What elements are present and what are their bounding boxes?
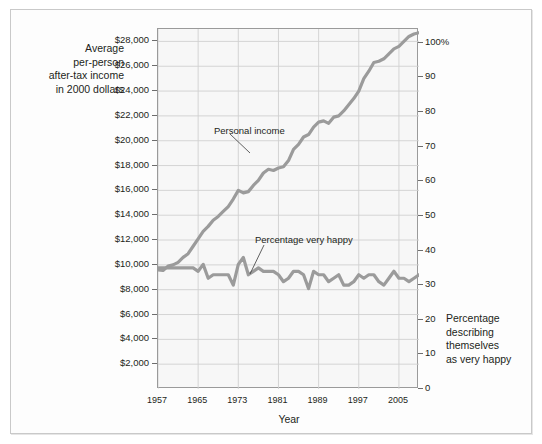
y-axis-right-tick-mark [418, 284, 423, 285]
y-axis-left-tick-mark [152, 338, 157, 339]
y-axis-left-tick-4: $20,000 [69, 135, 149, 145]
y-axis-right-tick-10: 0 [425, 383, 465, 393]
personal-income-annotation: Personal income [214, 126, 285, 136]
y-axis-right-tick-6: 40 [425, 245, 465, 255]
y-axis-left-tick-0: $28,000 [69, 35, 149, 45]
x-axis-tick-5: 1997 [335, 396, 381, 405]
chart-figure: Average per-person after-tax income in 2… [0, 0, 542, 444]
y-axis-right-tick-mark [418, 215, 423, 216]
x-axis-title: Year [244, 413, 334, 425]
y-axis-right-tick-mark [418, 353, 423, 354]
y-axis-left-tick-mark [152, 314, 157, 315]
y-axis-right-tick-2: 80 [425, 106, 465, 116]
y-axis-right-tick-5: 50 [425, 210, 465, 220]
y-axis-left-tick-mark [152, 214, 157, 215]
y-axis-right-tick-mark [418, 388, 423, 389]
x-axis-tick-2: 1973 [214, 396, 260, 405]
x-axis-tick-6: 2005 [375, 396, 421, 405]
y-axis-right-tick-8: 20 [425, 314, 465, 324]
y-axis-right-title-line-2: describing [446, 326, 536, 340]
y-axis-left-tick-5: $18,000 [69, 160, 149, 170]
y-axis-left-tick-3: $22,000 [69, 110, 149, 120]
y-axis-left-tick-mark [152, 239, 157, 240]
y-axis-left-tick-13: $2,000 [69, 358, 149, 368]
y-axis-left-tick-11: $6,000 [69, 309, 149, 319]
personal-income-leader-line [230, 134, 250, 153]
plot-canvas [158, 29, 419, 389]
y-axis-left-tick-1: $26,000 [69, 60, 149, 70]
y-axis-left-tick-6: $16,000 [69, 184, 149, 194]
y-axis-right-tick-4: 60 [425, 175, 465, 185]
y-axis-right-tick-mark [418, 42, 423, 43]
y-axis-right-tick-mark [418, 319, 423, 320]
y-axis-left-tick-mark [152, 65, 157, 66]
series-lines [158, 33, 419, 289]
y-axis-right-tick-mark [418, 146, 423, 147]
y-axis-left-tick-mark [152, 115, 157, 116]
y-axis-right-tick-1: 90 [425, 71, 465, 81]
very-happy-annotation: Percentage very happy [255, 235, 353, 245]
y-axis-left-tick-12: $4,000 [69, 333, 149, 343]
y-axis-left-tick-7: $14,000 [69, 209, 149, 219]
grid-lines [158, 29, 419, 389]
x-axis-tick-3: 1981 [254, 396, 300, 405]
x-axis-tick-0: 1957 [134, 396, 180, 405]
plot-area [157, 28, 418, 388]
y-axis-left-tick-mark [152, 40, 157, 41]
y-axis-left-tick-10: $8,000 [69, 284, 149, 294]
x-axis-tick-1: 1965 [174, 396, 220, 405]
y-axis-left-tick-mark [152, 189, 157, 190]
y-axis-right-tick-0: 100% [425, 37, 465, 47]
y-axis-left-tick-mark [152, 363, 157, 364]
x-axis-tick-4: 1989 [295, 396, 341, 405]
y-axis-right-tick-3: 70 [425, 141, 465, 151]
y-axis-left-tick-9: $10,000 [69, 259, 149, 269]
y-axis-left-tick-mark [152, 264, 157, 265]
y-axis-right-tick-mark [418, 111, 423, 112]
annotation-leader-lines [230, 134, 264, 274]
series-line-percentage-very-happy [158, 257, 419, 288]
y-axis-left-tick-mark [152, 90, 157, 91]
y-axis-left-tick-mark [152, 289, 157, 290]
y-axis-right-tick-9: 10 [425, 348, 465, 358]
y-axis-left-tick-mark [152, 165, 157, 166]
y-axis-left-tick-8: $12,000 [69, 234, 149, 244]
y-axis-left-tick-2: $24,000 [69, 85, 149, 95]
y-axis-right-tick-mark [418, 180, 423, 181]
y-axis-right-tick-7: 30 [425, 279, 465, 289]
y-axis-left-title-line-3: after-tax income [12, 69, 124, 83]
y-axis-right-tick-mark [418, 76, 423, 77]
y-axis-right-tick-mark [418, 250, 423, 251]
y-axis-left-tick-mark [152, 140, 157, 141]
